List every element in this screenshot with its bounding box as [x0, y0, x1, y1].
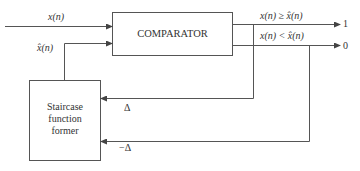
diagram-canvas [0, 0, 360, 171]
output-zero-label: 0 [343, 40, 348, 52]
condition-lt-label: x(n) < x̂(n) [260, 30, 304, 42]
output-one-label: 1 [343, 18, 348, 30]
neg-delta-label: −Δ [119, 142, 131, 154]
staircase-label-line-2: function [29, 113, 101, 125]
staircase-label-line-3: former [29, 125, 101, 137]
staircase-label: Staircase function former [29, 101, 101, 137]
staircase-label-line-1: Staircase [29, 101, 101, 113]
neg-delta-feedback-arrow [101, 46, 310, 142]
delta-label: Δ [124, 102, 130, 114]
condition-ge-label: x(n) ≥ x̂(n) [260, 10, 303, 22]
estimate-label: x̂(n) [37, 42, 53, 54]
estimate-arrow [65, 44, 113, 81]
input-label: x(n) [48, 11, 64, 23]
comparator-label: COMPARATOR [112, 28, 233, 40]
